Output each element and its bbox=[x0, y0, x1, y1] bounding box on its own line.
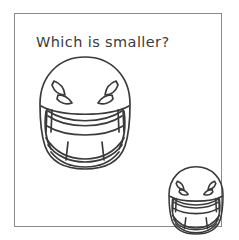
prompt-question-text: Which is smaller? bbox=[36, 34, 170, 51]
football-helmet-small[interactable] bbox=[163, 165, 229, 237]
worksheet-frame: Which is smaller? bbox=[14, 13, 222, 227]
football-helmet-small-icon bbox=[163, 165, 229, 237]
football-helmet-large[interactable] bbox=[35, 54, 135, 174]
football-helmet-large-icon bbox=[35, 54, 135, 174]
worksheet-page: Which is smaller? bbox=[0, 0, 239, 240]
